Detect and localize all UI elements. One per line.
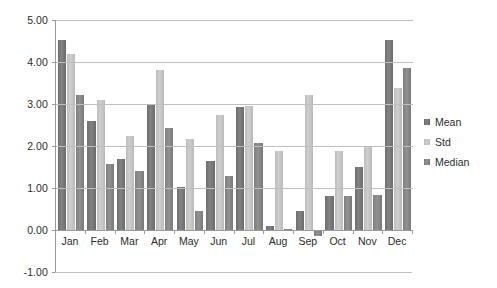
bar-std-sep[interactable] — [305, 95, 313, 230]
bar-group — [56, 20, 86, 230]
gridline — [56, 20, 413, 21]
y-axis-labels: 5.004.003.002.001.000.00-1.00 — [0, 0, 52, 288]
bar-mean-may[interactable] — [177, 187, 185, 230]
bar-std-jun[interactable] — [216, 115, 224, 230]
bar-mean-nov[interactable] — [355, 167, 363, 230]
legend-item-mean[interactable]: Mean — [424, 113, 494, 131]
x-axis-label-dec: Dec — [388, 234, 407, 248]
bar-mean-dec[interactable] — [385, 40, 393, 230]
legend-label: Median — [435, 157, 469, 168]
bar-median-may[interactable] — [195, 211, 203, 230]
x-axis-label-oct: Oct — [329, 234, 345, 248]
bar-median-mar[interactable] — [135, 171, 143, 230]
y-axis-tick-label: 1.00 — [27, 183, 48, 194]
x-axis-label-may: May — [179, 234, 199, 248]
plot-area — [55, 20, 413, 230]
legend-swatch-icon — [424, 119, 430, 125]
bar-std-may[interactable] — [186, 139, 194, 230]
bar-std-jan[interactable] — [67, 54, 75, 230]
chart-legend: MeanStdMedian — [424, 113, 494, 173]
bar-mean-oct[interactable] — [325, 196, 333, 230]
bar-std-apr[interactable] — [156, 70, 164, 230]
y-axis-tick-label: 0.00 — [27, 225, 48, 236]
bar-std-oct[interactable] — [335, 151, 343, 230]
bar-mean-jun[interactable] — [206, 161, 214, 230]
bar-group — [205, 20, 235, 230]
bar-group — [175, 20, 205, 230]
bar-median-apr[interactable] — [165, 128, 173, 230]
bar-median-nov[interactable] — [373, 195, 381, 230]
bar-group — [145, 20, 175, 230]
gridline — [56, 146, 413, 147]
bar-group — [354, 20, 384, 230]
bar-median-dec[interactable] — [403, 68, 411, 230]
bar-std-feb[interactable] — [97, 100, 105, 230]
x-axis-label-jul: Jul — [242, 234, 255, 248]
legend-item-std[interactable]: Std — [424, 133, 494, 151]
y-axis-tick — [52, 62, 56, 63]
y-axis-tick — [52, 104, 56, 105]
x-axis-label-feb: Feb — [91, 234, 109, 248]
y-axis-tick-label: -1.00 — [24, 267, 48, 278]
x-axis-label-jan: Jan — [61, 234, 78, 248]
x-axis-label-mar: Mar — [120, 234, 138, 248]
bar-group — [324, 20, 354, 230]
bar-group — [116, 20, 146, 230]
bar-group — [383, 20, 413, 230]
x-axis-label-apr: Apr — [151, 234, 167, 248]
chart-bottom-frame — [55, 272, 412, 273]
bar-median-jun[interactable] — [225, 176, 233, 230]
gridline — [56, 62, 413, 63]
bar-group — [294, 20, 324, 230]
legend-label: Mean — [435, 117, 461, 128]
bar-mean-sep[interactable] — [296, 211, 304, 230]
gridline — [56, 104, 413, 105]
bar-median-jul[interactable] — [254, 143, 262, 230]
y-axis-tick-label: 5.00 — [27, 15, 48, 26]
bar-group — [86, 20, 116, 230]
y-axis-tick-label: 4.00 — [27, 57, 48, 68]
y-axis-tick-label: 2.00 — [27, 141, 48, 152]
bar-chart: 5.004.003.002.001.000.00-1.00 JanFebMarA… — [0, 0, 497, 288]
bar-std-mar[interactable] — [126, 136, 134, 231]
bar-median-feb[interactable] — [106, 164, 114, 230]
legend-swatch-icon — [424, 139, 430, 145]
x-axis-label-aug: Aug — [269, 234, 288, 248]
bar-mean-feb[interactable] — [87, 121, 95, 230]
x-axis-labels: JanFebMarAprMayJunJulAugSepOctNovDec — [55, 234, 412, 250]
bar-std-jul[interactable] — [245, 106, 253, 230]
legend-item-median[interactable]: Median — [424, 153, 494, 171]
x-axis-label-nov: Nov — [358, 234, 377, 248]
bar-std-aug[interactable] — [275, 151, 283, 230]
y-axis-tick-label: 3.00 — [27, 99, 48, 110]
y-axis-tick — [52, 146, 56, 147]
gridline — [56, 188, 413, 189]
bar-mean-jan[interactable] — [58, 40, 66, 230]
x-axis-label-jun: Jun — [210, 234, 227, 248]
x-axis-label-sep: Sep — [299, 234, 318, 248]
bar-groups — [56, 20, 413, 230]
legend-swatch-icon — [424, 159, 430, 165]
bar-median-oct[interactable] — [344, 196, 352, 230]
bar-mean-mar[interactable] — [117, 159, 125, 230]
bar-group — [264, 20, 294, 230]
bar-mean-apr[interactable] — [147, 104, 155, 230]
x-axis-tick — [412, 230, 413, 234]
y-axis-tick — [52, 20, 56, 21]
bar-median-jan[interactable] — [76, 95, 84, 230]
y-axis-tick — [52, 188, 56, 189]
legend-label: Std — [435, 137, 451, 148]
bar-mean-jul[interactable] — [236, 107, 244, 230]
bar-group — [235, 20, 265, 230]
bar-std-dec[interactable] — [394, 88, 402, 230]
